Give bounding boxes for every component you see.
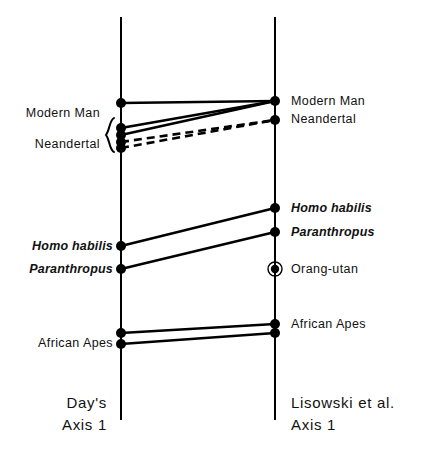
connector-lines — [121, 101, 275, 344]
axis-title-left-line1: Day's — [0, 392, 107, 414]
marker-R6 — [270, 319, 280, 329]
label-left-paranthropus: Paranthropus — [8, 263, 113, 276]
marker-L8 — [116, 328, 126, 338]
label-left-homo-habilis: Homo habilis — [8, 240, 113, 253]
connector-L6-R3 — [121, 208, 275, 246]
marker-R7 — [270, 328, 280, 338]
axis-title-right-line2: Axis 1 — [291, 414, 395, 436]
label-right-neandertal: Neandertal — [291, 113, 356, 126]
label-right-paranthropus: Paranthropus — [291, 226, 375, 239]
marker-L5 — [116, 143, 126, 153]
axis-title-right: Lisowski et al. Axis 1 — [291, 392, 395, 436]
connector-L1-R1 — [121, 101, 275, 103]
axis-title-left-line2: Axis 1 — [0, 414, 107, 436]
marker-R1 — [270, 96, 280, 106]
axis-title-left: Day's Axis 1 — [0, 392, 107, 436]
label-right-homo-habilis: Homo habilis — [291, 202, 372, 215]
marker-L7 — [116, 264, 126, 274]
connector-L7-R4 — [121, 232, 275, 269]
marker-L6 — [116, 241, 126, 251]
label-left-african-apes: African Apes — [8, 337, 113, 350]
label-right-modern-man: Modern Man — [291, 95, 365, 108]
connector-L9-R7 — [121, 333, 275, 344]
marker-L9 — [116, 339, 126, 349]
connector-L3-R1 — [121, 101, 275, 135]
connector-L8-R6 — [121, 324, 275, 333]
marker-R2 — [270, 115, 280, 125]
axis-comparison-figure: Modern Man Neandertal Homo habilis Paran… — [0, 0, 442, 472]
group-brace — [106, 118, 114, 152]
label-left-modern-man: Modern Man — [8, 107, 100, 120]
axis-title-right-line1: Lisowski et al. — [291, 392, 395, 414]
label-left-neandertal: Neandertal — [8, 138, 100, 151]
label-right-african-apes: African Apes — [291, 318, 366, 331]
label-right-orang-utan: Orang-utan — [291, 263, 358, 276]
marker-R5 — [271, 265, 279, 273]
marker-R4 — [270, 227, 280, 237]
marker-L1 — [116, 98, 126, 108]
marker-R3 — [270, 203, 280, 213]
